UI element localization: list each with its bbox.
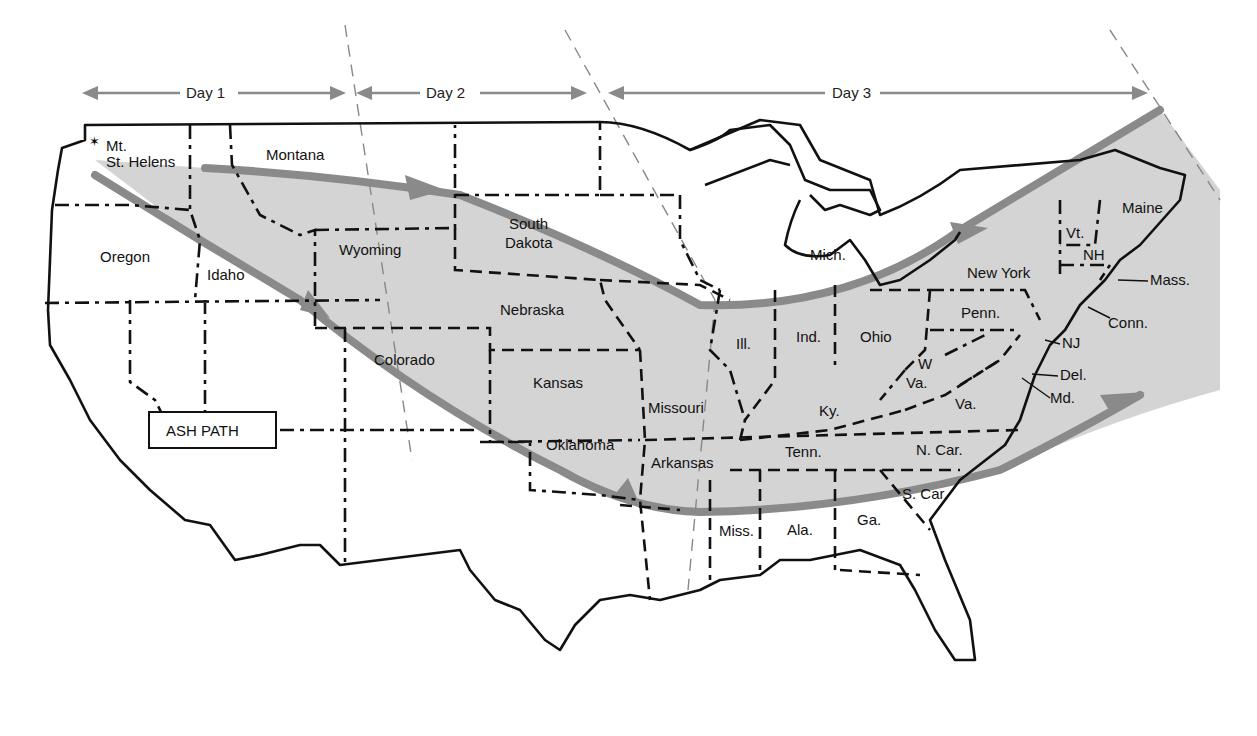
day-span-2: Day 2 (356, 84, 587, 101)
state-label: NH (1083, 246, 1105, 263)
ash-path-label: ASH PATH (166, 422, 239, 439)
state-label: Arkansas (651, 454, 714, 471)
state-label: Ga. (857, 511, 881, 528)
state-label: South (509, 215, 548, 232)
state-label: Va. (955, 395, 976, 412)
state-label: New York (967, 264, 1031, 281)
state-label: Penn. (961, 304, 1000, 321)
state-label: Kansas (533, 374, 583, 391)
state-label: Va. (906, 374, 927, 391)
state-label: Oklahoma (546, 436, 615, 453)
state-label: Maine (1122, 199, 1163, 216)
day-2-label: Day 2 (426, 84, 465, 101)
state-label: Montana (266, 146, 325, 163)
day-span-1: Day 1 (82, 84, 346, 101)
state-label: Idaho (207, 266, 245, 283)
state-label: Miss. (719, 522, 754, 539)
state-label: S. Car. (902, 485, 948, 502)
state-label: Mass. (1150, 271, 1190, 288)
day-3-label: Day 3 (832, 84, 871, 101)
state-label: Ohio (860, 328, 892, 345)
state-label: Md. (1050, 389, 1075, 406)
state-label: Ky. (819, 402, 840, 419)
state-label: NJ (1062, 334, 1080, 351)
state-label: Wyoming (339, 241, 401, 258)
origin-label-1: Mt. (106, 137, 127, 154)
state-label: N. Car. (916, 441, 963, 458)
state-label: Conn. (1108, 314, 1148, 331)
state-label: Ala. (787, 521, 813, 538)
ash-path-map: Day 1 Day 2 Day 3 ✶ Mt. St. Helens ASH P… (0, 0, 1257, 736)
state-label: Vt. (1066, 224, 1084, 241)
state-label: Mich. (810, 246, 846, 263)
state-label: Tenn. (785, 443, 822, 460)
day-1-label: Day 1 (186, 84, 225, 101)
state-label: Dakota (505, 234, 553, 251)
star-icon: ✶ (89, 134, 100, 149)
state-label: Missouri (648, 399, 704, 416)
state-label: Ind. (796, 328, 821, 345)
state-label: W (918, 355, 933, 372)
state-label: Nebraska (500, 301, 565, 318)
state-label: Ill. (736, 335, 751, 352)
day-span-3: Day 3 (608, 84, 1148, 101)
state-label: Oregon (100, 248, 150, 265)
origin-label-2: St. Helens (106, 153, 175, 170)
state-label: Del. (1060, 366, 1087, 383)
state-label: Colorado (374, 351, 435, 368)
